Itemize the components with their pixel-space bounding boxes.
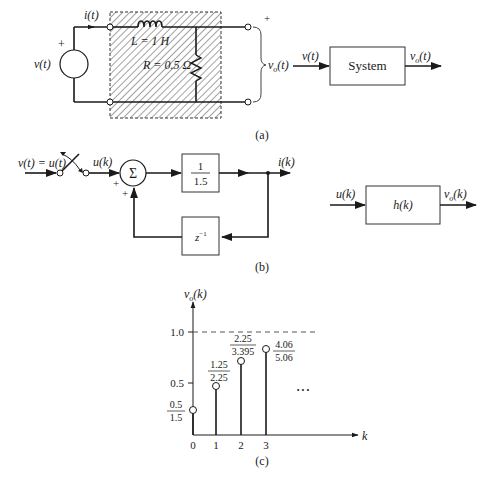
output-voltage-label: vo(t) [268, 58, 289, 74]
terminal-out-bottom [245, 99, 251, 105]
panel-a-system-block: v(t) System vo(t) [293, 47, 441, 85]
svg-text:2.25: 2.25 [234, 333, 252, 344]
terminal-in-bottom [107, 99, 113, 105]
caption-b: (b) [255, 260, 269, 274]
y-tick-label-05: 0.5 [170, 377, 184, 389]
svg-text:1.5: 1.5 [170, 412, 183, 423]
stem-marker-1 [213, 383, 220, 390]
feedback-path-left [134, 188, 182, 237]
current-label: i(t) [84, 8, 99, 22]
svg-text:4.06: 4.06 [275, 339, 293, 350]
gain-numerator: 1 [198, 160, 204, 172]
inductor-label: L = 1 H [130, 34, 171, 48]
x-tick-label-2: 2 [238, 439, 244, 451]
output-current-label: i(k) [278, 155, 295, 169]
stem-marker-2 [238, 358, 245, 365]
y-tick-label-1: 1.0 [170, 326, 184, 338]
terminal-in-top [107, 24, 113, 30]
sum-plus-1: + [113, 177, 119, 189]
x-tick-label-1: 1 [213, 439, 219, 451]
fraction-label-3: 4.06 5.06 [273, 339, 295, 363]
svg-text:1.25: 1.25 [210, 359, 228, 370]
svg-text:0.5: 0.5 [170, 399, 183, 410]
h-output-label: vo(k) [444, 187, 467, 203]
x-tick-label-3: 3 [263, 439, 269, 451]
stem-marker-0 [190, 407, 197, 414]
svg-text:3.395: 3.395 [232, 346, 255, 357]
switch-terminal-2 [83, 170, 89, 176]
caption-c: (c) [255, 454, 268, 468]
system-output-label: vo(t) [410, 49, 431, 65]
terminal-out-top [245, 24, 251, 30]
caption-a: (a) [255, 128, 268, 142]
source-label: v(t) [34, 57, 51, 71]
system-input-label: v(t) [302, 49, 319, 63]
panel-b-h-block: u(k) h(k) vo(k) [330, 186, 476, 224]
continuation-ellipsis: • • • [297, 386, 310, 395]
svg-text:5.06: 5.06 [275, 352, 293, 363]
panel-b-block-diagram: v(t) = u(t) u(k) Σ + + 1 1.5 i(k) z−1 [18, 152, 295, 255]
sampler-input-label: v(t) = u(t) [18, 156, 66, 170]
output-plus: + [264, 12, 270, 24]
svg-text:2.25: 2.25 [210, 372, 228, 383]
y-axis-label: vo(k) [184, 287, 207, 303]
feedback-path-right [222, 173, 268, 237]
sampled-label: u(k) [93, 155, 112, 169]
h-box-label: h(k) [393, 198, 412, 212]
figure-canvas: + v(t) i(t) L = 1 H R = 0.5 Ω + vo(t) v(… [0, 0, 492, 480]
source-plus: + [58, 37, 65, 51]
fraction-label-1: 1.25 2.25 [208, 359, 230, 383]
fraction-label-0: 0.5 1.5 [167, 399, 185, 423]
sum-symbol: Σ [129, 166, 137, 181]
fraction-label-2: 2.25 3.395 [230, 333, 256, 357]
gain-denominator: 1.5 [194, 175, 208, 187]
stem-marker-3 [263, 346, 270, 353]
system-box-label: System [348, 58, 386, 73]
h-input-label: u(k) [336, 187, 355, 201]
x-axis-label: k [362, 429, 368, 443]
panel-a-circuit: + v(t) i(t) L = 1 H R = 0.5 Ω + vo(t) [34, 8, 289, 118]
sum-plus-2: + [122, 187, 128, 199]
resistor-label: R = 0.5 Ω [142, 58, 191, 72]
panel-c-stem-plot: vo(k) k 1.0 0.5 0.5 1.5 1.25 2.25 2.25 [167, 287, 368, 451]
voltage-source-icon [60, 50, 88, 78]
x-tick-label-0: 0 [190, 439, 196, 451]
output-brace-icon [253, 27, 266, 102]
